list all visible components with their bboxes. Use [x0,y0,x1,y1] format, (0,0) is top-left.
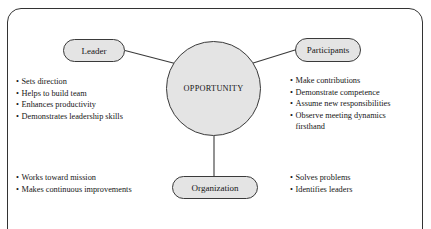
node-participants-label: Participants [307,45,350,55]
bullet-list-organization-left: • Works toward mission • Makes continuou… [16,172,132,195]
bullet-icon: • [16,99,19,111]
node-organization-label: Organization [192,183,239,193]
bullet-list-participants: • Make contributions • Demonstrate compe… [290,75,390,133]
bullet-icon: • [16,172,19,184]
list-item-text: Assume new responsibilities [296,99,391,108]
list-item-text: Enhances productivity [22,100,96,109]
list-item: • Enhances productivity [16,99,123,111]
list-item-text-continuation: firsthand [296,121,391,133]
list-item: • Makes continuous improvements [16,184,132,196]
list-item-text: Makes continuous improvements [22,185,132,194]
connector-leader-to-center [125,51,177,65]
connector-participants-to-center [250,50,295,64]
list-item: • Identifies leaders [290,184,352,196]
list-item: • Demonstrate competence [290,87,390,99]
node-leader: Leader [63,39,125,62]
bullet-icon: • [16,111,19,123]
bullet-icon: • [16,76,19,88]
list-item-text: Works toward mission [22,173,96,182]
list-item: • Make contributions [290,75,390,87]
bullet-list-leader: • Sets direction • Helps to build team •… [16,76,123,122]
bullet-icon: • [290,172,293,184]
list-item-text: Identifies leaders [296,185,353,194]
bullet-icon: • [16,184,19,196]
center-node-opportunity: OPPORTUNITY [166,41,261,136]
node-leader-label: Leader [82,46,107,56]
bullet-icon: • [290,75,293,87]
bullet-icon: • [290,98,293,110]
list-item-text: Sets direction [22,77,67,86]
list-item-text: Make contributions [296,76,361,85]
list-item-text: Observe meeting dynamics [296,111,386,120]
diagram-canvas: OPPORTUNITY Leader Participants Organiza… [0,0,431,229]
list-item-text: Solves problems [296,173,351,182]
list-item: • Assume new responsibilities [290,98,390,110]
list-item: • Demonstrates leadership skills [16,111,123,123]
center-node-label: OPPORTUNITY [184,84,244,93]
list-item: • Helps to build team [16,88,123,100]
list-item-text: Helps to build team [22,89,87,98]
list-item: • Solves problems [290,172,352,184]
list-item: • Observe meeting dynamics firsthand [290,110,390,133]
bullet-list-organization-right: • Solves problems • Identifies leaders [290,172,352,195]
bullet-icon: • [290,184,293,196]
list-item: • Works toward mission [16,172,132,184]
list-item-text: Demonstrates leadership skills [22,112,123,121]
node-organization: Organization [172,176,258,199]
bullet-icon: • [290,87,293,99]
bullet-icon: • [290,110,293,122]
node-participants: Participants [295,38,361,62]
list-item-text: Demonstrate competence [296,88,380,97]
bullet-icon: • [16,88,19,100]
list-item: • Sets direction [16,76,123,88]
